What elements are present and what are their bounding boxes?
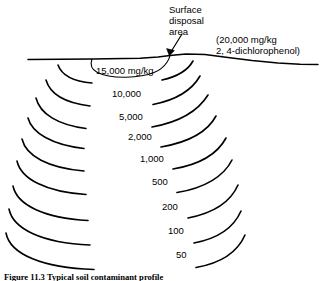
contour-label-500: 500 — [152, 177, 168, 188]
contour-arc-500-left — [17, 161, 86, 195]
contour-arc-5000-right — [152, 95, 208, 127]
contour-arc-2000-left — [28, 118, 84, 149]
contour-label-100: 100 — [168, 226, 184, 237]
contour-label-5000: 5,000 — [119, 112, 143, 123]
contour-arc-15000-left — [58, 65, 92, 83]
contour-label-2000: 2,000 — [128, 132, 152, 143]
contour-arc-200-left — [13, 186, 88, 221]
contour-label-15000: 15,000 mg/kg — [96, 66, 154, 77]
contour-arc-15000-right — [162, 61, 193, 80]
contour-arc-100-right — [194, 211, 241, 243]
contour-arc-5000-left — [36, 98, 86, 129]
source-concentration-label-line2: 2, 4-dichlorophenol) — [216, 46, 300, 57]
contour-arc-50-left — [6, 233, 94, 270]
contour-arc-500-right — [177, 160, 232, 193]
contour-label-200: 200 — [162, 202, 178, 213]
figure-caption: Figure 11.3 Typical soil contaminant pro… — [4, 272, 324, 281]
contour-label-1000: 1,000 — [140, 154, 164, 165]
surface-disposal-area-label-line3: area — [169, 27, 188, 38]
contour-arc-50-right — [196, 235, 245, 268]
contour-label-50: 50 — [176, 250, 187, 261]
contour-arc-10000-right — [153, 76, 200, 105]
contour-arc-1000-left — [22, 139, 84, 171]
contour-arc-10000-left — [46, 80, 90, 106]
contour-arc-200-right — [188, 185, 238, 218]
contour-arc-2000-right — [161, 116, 216, 147]
contour-label-10000: 10,000 — [112, 89, 141, 100]
